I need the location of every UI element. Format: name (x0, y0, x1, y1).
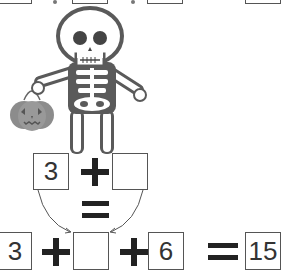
middle-plus-sign (81, 158, 109, 186)
bottom-term3-box[interactable]: 6 (148, 232, 184, 270)
skull-icon (58, 8, 122, 66)
skeleton-legs (70, 110, 114, 154)
plus-icon (120, 238, 148, 266)
skeleton-torso (68, 62, 116, 114)
middle-right-box[interactable] (112, 153, 148, 190)
bottom-result-box[interactable]: 15 (245, 232, 281, 270)
bottom-term1-box[interactable]: 3 (0, 232, 32, 270)
pumpkin-bucket-icon (10, 91, 54, 131)
bottom-plus-sign-2 (120, 238, 148, 266)
bottom-equals-sign (208, 243, 238, 261)
bottom-term2-box[interactable] (73, 232, 109, 270)
skeleton-illustration (0, 0, 283, 270)
plus-icon (81, 158, 109, 186)
middle-left-box[interactable]: 3 (33, 153, 69, 190)
middle-equals-sign (82, 201, 109, 219)
plus-icon (42, 238, 70, 266)
bottom-plus-sign-1 (42, 238, 70, 266)
